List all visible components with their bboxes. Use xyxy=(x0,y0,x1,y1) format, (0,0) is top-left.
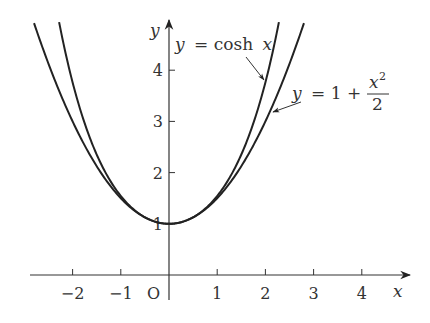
y-ticks: 1234 xyxy=(153,61,175,234)
x-tick-label: 4 xyxy=(357,284,367,303)
para-label-eq: = 1 + xyxy=(311,83,361,103)
y-axis-label: y xyxy=(149,20,160,40)
cosh-label-x: x xyxy=(263,34,273,54)
y-tick-label: 2 xyxy=(153,164,163,183)
x-axis-label: x xyxy=(393,281,403,301)
x-tick-label: 1 xyxy=(212,284,222,303)
y-tick-label: 1 xyxy=(153,215,163,234)
cosh-label-y: y xyxy=(174,34,185,54)
plot-canvas: −2−11234 1234 x y O y = cosh x y = 1 + x… xyxy=(0,0,430,323)
para-label-den: 2 xyxy=(372,94,383,114)
parabola-annotation: y = 1 + x 2 2 xyxy=(273,70,389,114)
x-tick-label: 2 xyxy=(260,284,270,303)
para-label-y: y xyxy=(291,83,302,103)
x-ticks: −2−11234 xyxy=(61,269,367,303)
para-label-num-x: x xyxy=(369,72,379,92)
x-tick-label: −2 xyxy=(61,284,85,303)
cosh-annotation: y = cosh x xyxy=(174,34,273,80)
y-tick-label: 4 xyxy=(153,61,163,80)
svg-text:y = 1 +: y = 1 + xyxy=(291,83,361,103)
x-tick-label: −1 xyxy=(109,284,133,303)
origin-label: O xyxy=(147,284,160,303)
cosh-label-eq: = cosh xyxy=(194,34,253,54)
parabola-pointer-arrow xyxy=(273,102,301,112)
para-label-num-exp: 2 xyxy=(379,70,386,83)
cosh-pointer-arrow xyxy=(246,57,264,80)
y-tick-label: 3 xyxy=(153,112,163,131)
x-tick-label: 3 xyxy=(309,284,319,303)
svg-text:y = cosh x: y = cosh x xyxy=(174,34,273,54)
